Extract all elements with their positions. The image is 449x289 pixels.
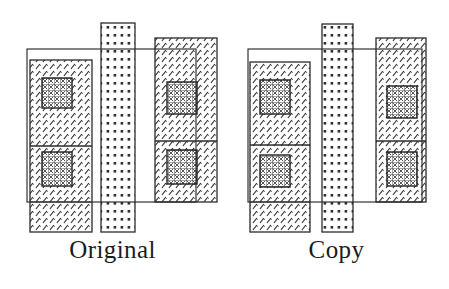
left-inner-crosshatch-box-upper <box>42 78 72 108</box>
figure-original <box>0 0 225 240</box>
panel-original: Original <box>0 0 225 289</box>
left-inner-crosshatch-box-upper <box>260 80 290 114</box>
shapes-original <box>27 23 217 232</box>
middle-dotted-column <box>322 24 353 232</box>
right-inner-crosshatch-box-upper <box>387 86 417 118</box>
shapes-copy <box>248 24 426 232</box>
caption-copy: Copy <box>224 236 449 264</box>
diagram-stage: Original <box>0 0 449 289</box>
right-inner-crosshatch-box-upper <box>167 82 197 114</box>
caption-original: Original <box>0 236 225 264</box>
right-inner-crosshatch-box-lower <box>167 150 197 184</box>
left-inner-crosshatch-box-lower <box>260 155 290 187</box>
left-inner-crosshatch-box-lower <box>42 152 72 186</box>
middle-dotted-column <box>101 23 135 232</box>
figure-copy <box>224 0 449 240</box>
panel-copy: Copy <box>224 0 449 289</box>
right-inner-crosshatch-box-lower <box>387 152 417 186</box>
